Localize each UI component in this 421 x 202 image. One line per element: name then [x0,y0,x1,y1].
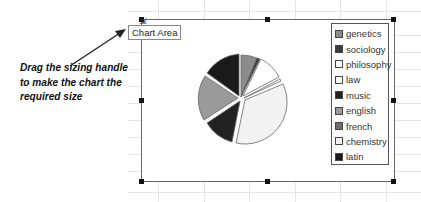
legend-item-english: english [332,103,388,118]
swatch-icon [335,137,343,145]
callout-text: Drag the sizing handle to make the chart… [20,60,130,104]
swatch-icon [335,122,343,130]
legend-item-chemistry: chemistry [332,134,388,149]
legend-item-music: music [332,88,388,103]
sizing-handle-bottom[interactable] [265,179,270,184]
swatch-icon [335,45,343,53]
legend-item-genetics: genetics [332,26,388,41]
swatch-icon [335,30,343,38]
legend-item-french: french [332,118,388,133]
sizing-handle-top-right[interactable] [391,17,396,22]
chart-legend[interactable]: genetics sociology philosophy law music … [331,23,389,165]
legend-item-latin: latin [332,149,388,164]
chart-area-tooltip: Chart Area [128,25,181,40]
swatch-icon [335,60,343,68]
sizing-handle-top[interactable] [265,17,270,22]
legend-item-law: law [332,72,388,87]
sizing-handle-bottom-left[interactable] [139,179,144,184]
sizing-handle-left[interactable] [139,98,144,103]
swatch-icon [335,153,343,161]
sizing-handle-right[interactable] [391,98,396,103]
swatch-icon [335,91,343,99]
legend-item-philosophy: philosophy [332,57,388,72]
swatch-icon [335,76,343,84]
legend-item-sociology: sociology [332,41,388,56]
pie-slice-chemistry [236,84,287,144]
swatch-icon [335,107,343,115]
pie-chart[interactable] [195,50,295,150]
sizing-handle-bottom-right[interactable] [391,179,396,184]
